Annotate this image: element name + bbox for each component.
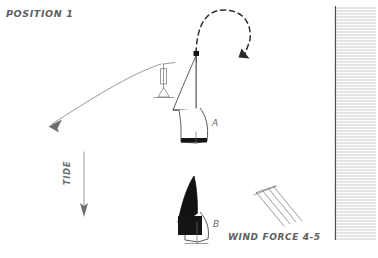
buoy-mark-icon <box>154 63 175 98</box>
quay-wall-hatching <box>334 6 376 240</box>
sailing-diagram: POSITION 1 <box>0 0 378 258</box>
quay-wall <box>334 6 376 240</box>
diagram-canvas <box>0 0 378 258</box>
tide-arrow <box>80 152 88 217</box>
boat-b-sail <box>178 176 197 222</box>
boat-a-sail <box>173 56 196 110</box>
tide-label: TIDE <box>62 150 72 196</box>
boat-a-label: A <box>212 118 219 128</box>
maneuver-arrow-dashed <box>196 10 250 62</box>
boat-b <box>178 176 209 244</box>
wind-barb-icon <box>254 186 302 226</box>
boat-a-hull <box>179 108 208 143</box>
boat-a <box>173 51 208 143</box>
boat-b-label: B <box>213 219 220 229</box>
wind-force-label: WIND FORCE 4-5 <box>228 232 321 242</box>
rode-bearing-arrow <box>49 64 162 133</box>
